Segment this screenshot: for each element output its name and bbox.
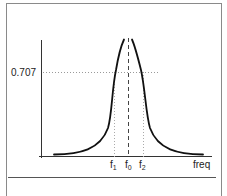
f0-subscript: 0 <box>128 164 132 171</box>
f2-subscript: 2 <box>142 164 146 171</box>
f1-label: f1 <box>110 159 117 171</box>
f2-label: f2 <box>139 159 146 171</box>
f0-label: f0 <box>125 159 132 171</box>
x-axis-label: freq <box>193 159 210 170</box>
y-ref-label: 0.707 <box>11 67 36 78</box>
resonance-diagram: 0.707 f1 f0 f2 freq <box>0 0 227 196</box>
f1-subscript: 1 <box>113 164 117 171</box>
